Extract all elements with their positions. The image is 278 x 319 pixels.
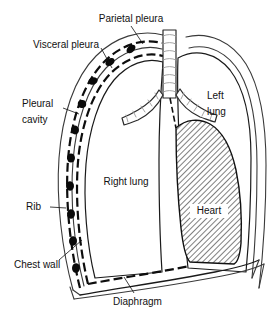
right-lung-shape (85, 60, 163, 278)
label-heart: Heart (197, 205, 222, 216)
label-chest-wall: Chest wall (14, 259, 60, 270)
thorax-diagram: Parietal pleura Visceral pleura Pleural … (0, 0, 278, 319)
trachea-tube (163, 30, 176, 98)
rib-icon (67, 153, 75, 162)
rib-icon (104, 56, 116, 67)
leader-diaphragm (124, 277, 134, 293)
label-pleural-cavity-line1: Pleural (22, 98, 53, 109)
mediastinum-dashed-line (170, 98, 176, 128)
label-diaphragm: Diaphragm (113, 296, 162, 307)
leader-pleural-cavity (63, 108, 79, 114)
label-visceral-pleura: Visceral pleura (33, 39, 99, 50)
label-left-lung-line2: lung (207, 106, 226, 117)
label-right-lung: Right lung (103, 176, 148, 187)
label-parietal-pleura: Parietal pleura (99, 13, 164, 24)
leader-rib (50, 207, 66, 208)
anatomy-figure: Parietal pleura Visceral pleura Pleural … (0, 0, 278, 319)
label-left-lung-line1: Left (207, 90, 224, 101)
chest-wall-bottom-left (73, 290, 80, 295)
chest-wall-bottom-left-2 (70, 287, 74, 299)
label-pleural-cavity-line2: cavity (22, 114, 48, 125)
label-rib: Rib (26, 201, 41, 212)
